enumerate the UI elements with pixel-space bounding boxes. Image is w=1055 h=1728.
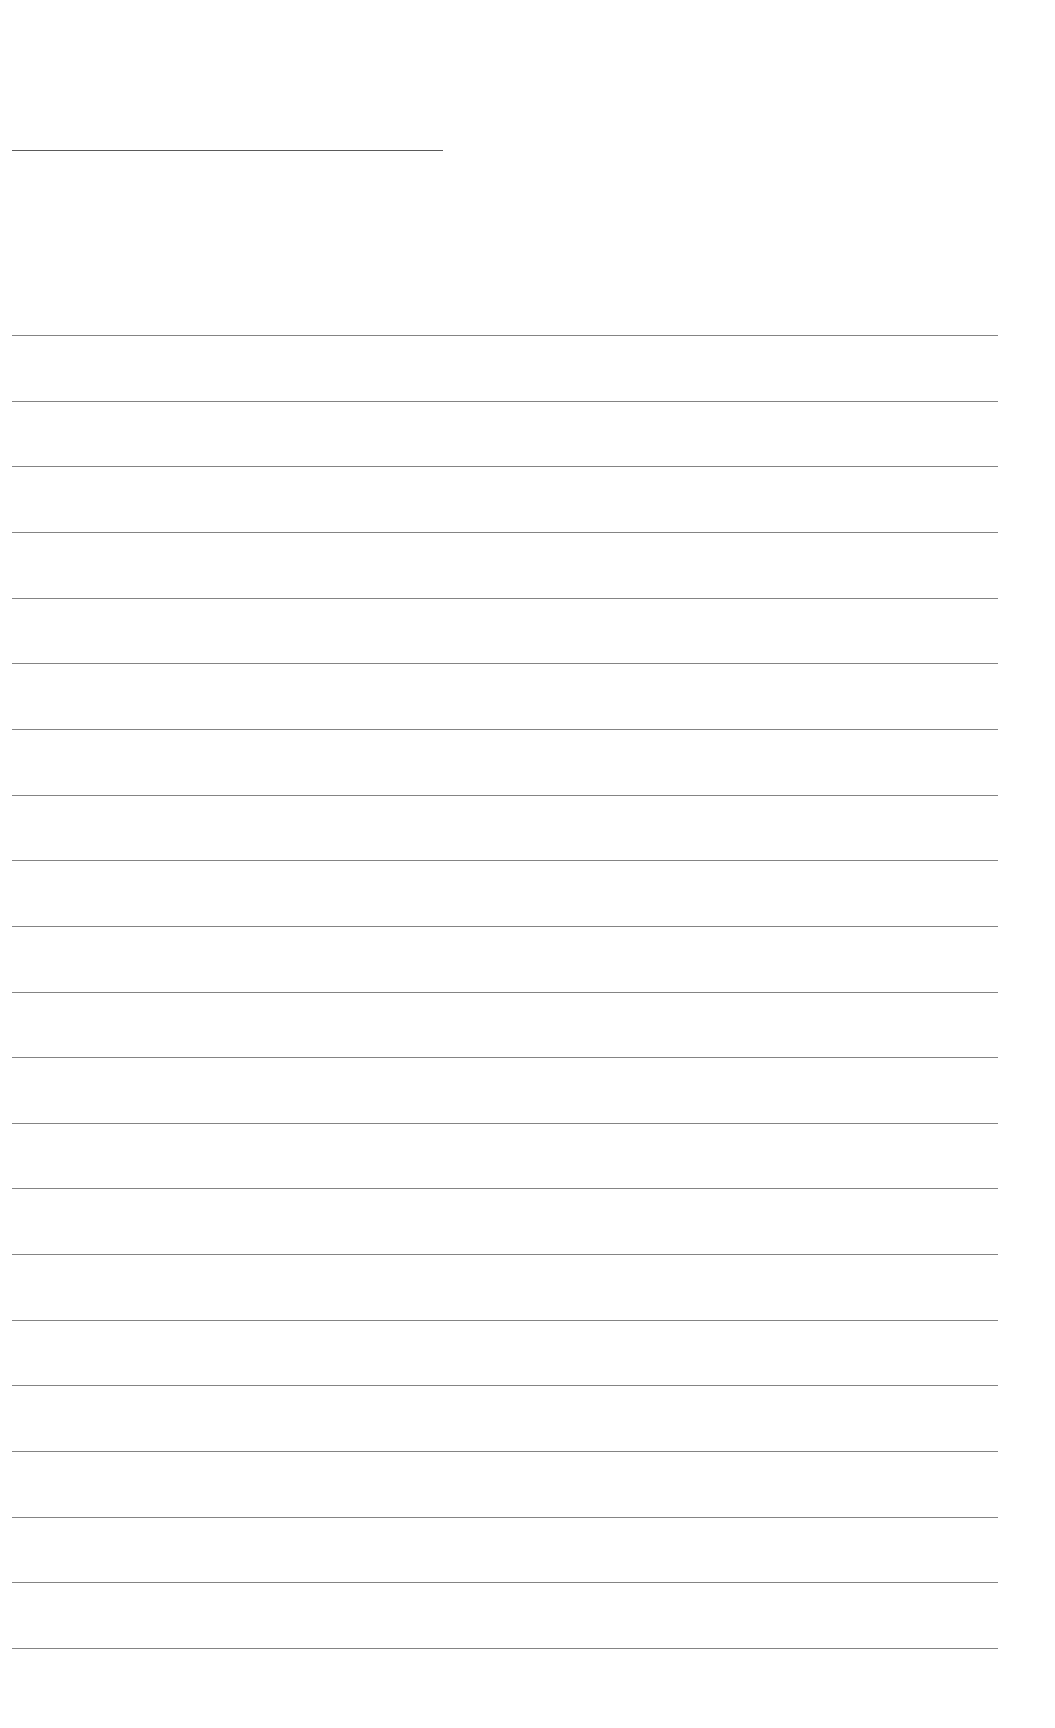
ruled-line [12, 1188, 998, 1189]
ruled-lines-container [0, 0, 1055, 1728]
ruled-line [12, 729, 998, 730]
ruled-line [12, 598, 998, 599]
ruled-line [12, 1582, 998, 1583]
ruled-line [12, 1057, 998, 1058]
ruled-line [12, 532, 998, 533]
ruled-line [12, 466, 998, 467]
ruled-line [12, 1254, 998, 1255]
ruled-line [12, 401, 998, 402]
ruled-line [12, 1385, 998, 1386]
ruled-line [12, 1320, 998, 1321]
ruled-line [12, 860, 998, 861]
ruled-line [12, 663, 998, 664]
ruled-line [12, 992, 998, 993]
ruled-line [12, 335, 998, 336]
ruled-line [12, 1451, 998, 1452]
ruled-line [12, 1517, 998, 1518]
lined-page [0, 0, 1055, 1728]
ruled-line [12, 1123, 998, 1124]
ruled-line [12, 795, 998, 796]
ruled-line [12, 926, 998, 927]
ruled-line [12, 1648, 998, 1649]
